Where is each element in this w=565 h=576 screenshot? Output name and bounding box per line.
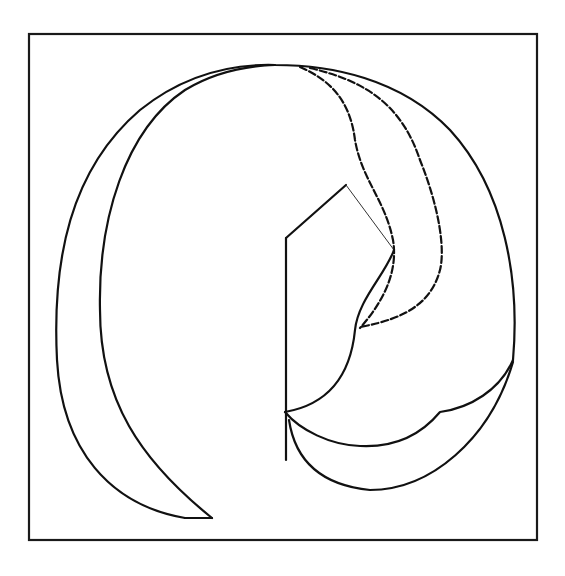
middle-arc <box>285 360 513 446</box>
bottom-arc <box>289 362 513 490</box>
stem-left-roof <box>286 185 346 238</box>
inner-left-curve <box>100 65 275 518</box>
diagram-frame <box>29 34 537 540</box>
diagram-canvas <box>0 0 565 576</box>
dashed-inner <box>300 67 394 328</box>
upper-lower-arc <box>285 250 394 412</box>
diagram-strokes <box>56 65 514 518</box>
